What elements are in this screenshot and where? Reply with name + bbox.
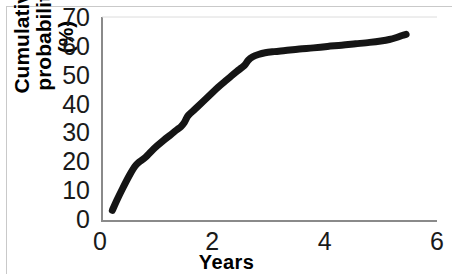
figure-container: Cumulative probability (%) 70 60 50 40 3… [0, 0, 453, 274]
cumulative-probability-curve [112, 34, 406, 210]
plot-area [0, 0, 453, 274]
axis-lines [101, 17, 437, 221]
